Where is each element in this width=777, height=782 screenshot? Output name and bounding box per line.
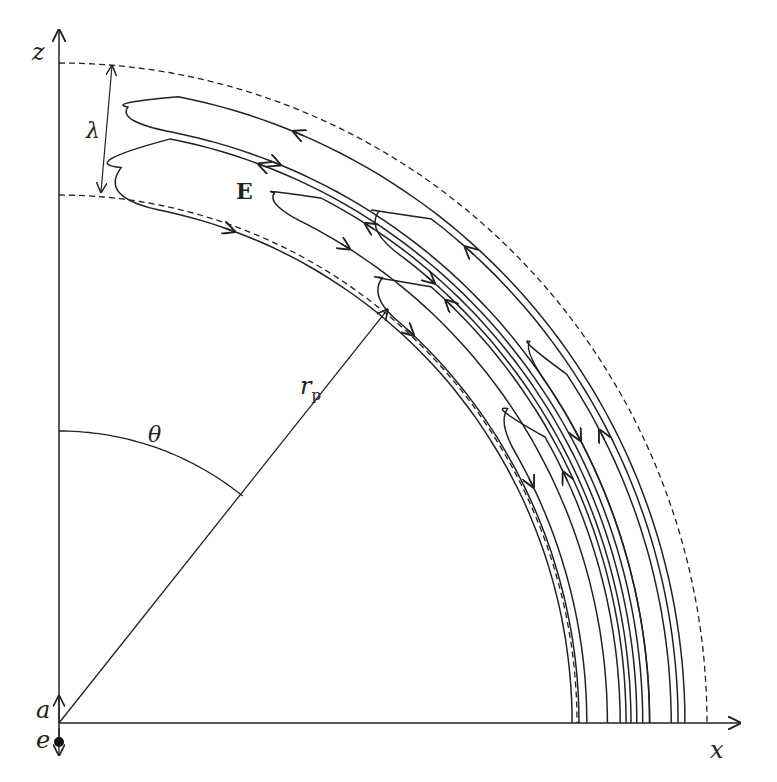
field-arrow-icon bbox=[271, 161, 281, 165]
field-diagram bbox=[0, 0, 777, 782]
radius-vector bbox=[59, 310, 387, 723]
field-line-loop bbox=[123, 97, 685, 723]
field-arrow-icon bbox=[465, 247, 473, 254]
lambda-label: λ bbox=[86, 118, 100, 143]
field-arrow-icon bbox=[576, 431, 581, 440]
theta-label: θ bbox=[148, 422, 161, 447]
x-axis-label: x bbox=[710, 736, 724, 764]
electron-dot bbox=[54, 737, 64, 747]
outer-boundary-dashed bbox=[59, 63, 707, 723]
field-label-E: E bbox=[236, 178, 253, 204]
field-arrow-icon bbox=[226, 228, 234, 231]
field-arrow-icon bbox=[341, 244, 349, 249]
field-arrow-icon bbox=[259, 164, 269, 168]
field-arrow-icon bbox=[427, 276, 435, 283]
field-arrow-icon bbox=[529, 479, 533, 487]
z-axis-label: z bbox=[32, 38, 45, 66]
lambda-arrow bbox=[101, 66, 112, 192]
e-label: e bbox=[36, 726, 50, 754]
a-label: a bbox=[36, 696, 50, 724]
field-arrow-icon bbox=[600, 430, 605, 440]
field-arrow-icon bbox=[293, 131, 303, 135]
field-arrow-icon bbox=[446, 300, 453, 307]
radius-label: rp bbox=[300, 372, 321, 404]
field-lines bbox=[107, 97, 685, 723]
field-arrow-icon bbox=[563, 472, 567, 481]
field-arrow-icon bbox=[365, 223, 374, 229]
inner-boundary-dashed bbox=[59, 195, 577, 723]
